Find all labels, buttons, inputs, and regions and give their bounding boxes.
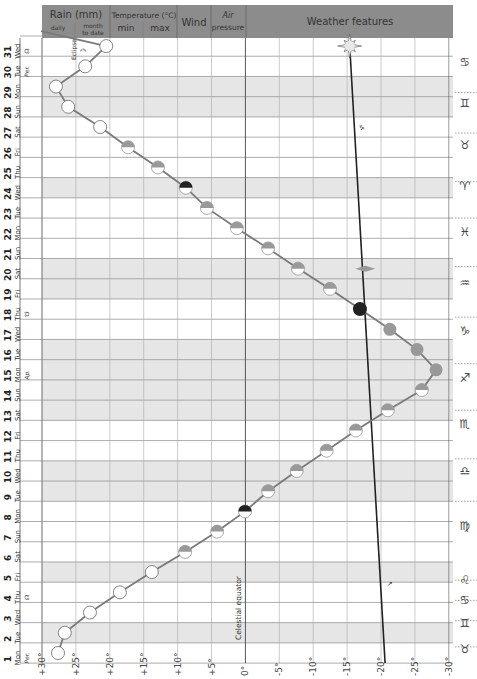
zodiac-sign-icon: ♋ (460, 55, 471, 69)
x-tick-label: -5° (274, 663, 284, 676)
day-name: Tue (14, 632, 22, 645)
day-name: Sat (14, 551, 22, 563)
day-name: Mon (14, 509, 22, 524)
day-name: Thu (14, 166, 22, 180)
header-air: Air (222, 11, 235, 20)
day-number: 30 (3, 66, 13, 79)
day-number: 21 (3, 248, 13, 261)
day-name: Sun (14, 388, 22, 401)
day-number: 27 (3, 127, 13, 140)
zodiac-sign-icon: ♊ (460, 616, 471, 630)
day-name: Wed (14, 185, 22, 200)
moon-full-icon (100, 40, 113, 53)
x-tick-label: +30° (37, 653, 47, 677)
small-arrow-icon: ↗ (387, 580, 393, 588)
x-tick-label: +5° (207, 658, 217, 676)
weekend-band (42, 461, 453, 481)
day-note: Ap. (23, 370, 31, 381)
day-number: 9 (3, 494, 13, 500)
moon-new-icon (411, 343, 424, 356)
day-number: 20 (3, 268, 13, 281)
day-name: Mon (14, 651, 22, 666)
zodiac-sign-icon: ♉ (460, 642, 471, 656)
day-name: Wed (14, 43, 22, 58)
day-name: Sat (14, 409, 22, 421)
day-note: Per. (23, 652, 30, 663)
zodiac-sign-icon: ♈ (460, 179, 471, 193)
day-number: 1 (3, 656, 13, 662)
moon-full-icon (49, 80, 62, 93)
weekend-band (42, 178, 453, 198)
day-number: 29 (3, 86, 13, 99)
day-name: Tue (14, 349, 22, 362)
day-note: ☊ (23, 595, 30, 600)
weekend-band (42, 97, 453, 117)
day-name: Fri (14, 290, 22, 298)
weekend-band (42, 360, 453, 380)
x-tick-label: -10° (308, 657, 318, 676)
header-wind: Wind (181, 17, 206, 28)
weekend-band (42, 339, 453, 359)
eclipse-label: Eclipse (70, 39, 78, 60)
table-header: Rain (mm) daily month to date Temperatur… (42, 5, 453, 38)
day-number: 8 (3, 514, 13, 520)
x-tick-label: +10° (173, 653, 183, 677)
weekend-band (42, 481, 453, 501)
weekend-band (42, 380, 453, 400)
zodiac-sign-icon: ♐ (460, 371, 471, 385)
moon-full-icon (145, 566, 158, 579)
day-name: Mon (14, 226, 22, 241)
day-number: 12 (3, 430, 13, 443)
x-tick-label: +25° (71, 653, 81, 677)
day-number: 2 (3, 636, 13, 642)
celestial-equator-label: Celestial equator (234, 575, 243, 640)
day-number: 15 (3, 370, 13, 383)
header-rain-month: month (83, 22, 103, 29)
moon-full-icon (62, 100, 75, 113)
day-labels: 1MonPer.2Tue3Wed4Thu☊5Fri6Sat7Sun8Mon9Tu… (3, 43, 31, 665)
day-number: 19 (3, 289, 13, 302)
day-name: Wed (14, 468, 22, 483)
zodiac-signs: ♉♊♋♌♍♎♏♐♑♒♓♈♉♊♋ (455, 55, 477, 656)
day-name: Thu (14, 449, 22, 463)
zodiac-sign-icon: ♑ (460, 324, 471, 338)
moon-full-icon (79, 60, 92, 73)
header-rain: Rain (mm) (50, 9, 103, 20)
day-number: 23 (3, 208, 13, 221)
day-name: Tue (14, 490, 22, 503)
day-number: 13 (3, 410, 13, 423)
day-name: Tue (14, 65, 22, 78)
moon-full-icon (113, 586, 126, 599)
day-name: Wed (14, 327, 22, 342)
day-note: Per. (23, 66, 30, 77)
day-note: ☊ (23, 48, 30, 53)
day-name: Sun (14, 247, 22, 260)
moon-full-icon (83, 606, 96, 619)
header-weather-features: Weather features (307, 16, 394, 27)
day-number: 28 (3, 107, 13, 120)
day-name: Sat (14, 126, 22, 138)
day-name: Thu (14, 591, 22, 605)
weekend-band (42, 76, 453, 96)
day-number: 10 (3, 471, 13, 484)
day-number: 22 (3, 228, 13, 241)
day-number: 14 (3, 390, 13, 403)
day-number: 3 (3, 615, 13, 621)
day-number: 18 (3, 309, 13, 322)
day-name: Fri (14, 148, 22, 156)
x-tick-label: -25° (410, 657, 420, 676)
zodiac-sign-icon: ♊ (460, 96, 471, 110)
zodiac-sign-icon: ♍ (460, 519, 471, 533)
header-temperature: Temperature (°C) (111, 11, 177, 20)
moon-full-icon (52, 647, 65, 660)
zodiac-sign-icon: ♓ (460, 225, 471, 239)
header-rain-daily: daily (51, 24, 66, 32)
day-number: 25 (3, 167, 13, 180)
x-tick-label: 0° (240, 666, 250, 676)
day-number: 16 (3, 349, 13, 362)
weekend-band (42, 259, 453, 279)
x-tick-label: -15° (342, 657, 352, 676)
declination-chart: Rain (mm) daily month to date Temperatur… (0, 0, 477, 679)
day-name: Mon (14, 367, 22, 382)
day-name: Mon (14, 84, 22, 99)
